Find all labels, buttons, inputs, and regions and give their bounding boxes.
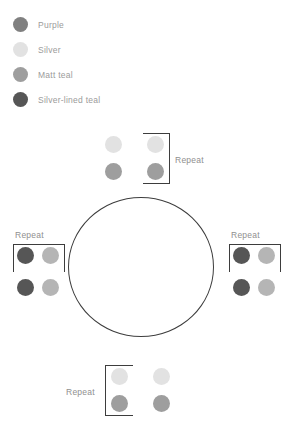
necklace-ring-outline xyxy=(68,197,214,337)
bead-silver xyxy=(111,368,128,385)
bead-cluster-top: Repeat xyxy=(105,136,195,188)
legend-label-purple: Purple xyxy=(38,20,64,30)
beading-pattern-diagram: Purple Silver Matt teal Silver-lined tea… xyxy=(0,0,283,427)
bead-matt-teal xyxy=(153,395,170,412)
legend-swatch-purple xyxy=(13,17,28,32)
bead-cluster-bottom: Repeat xyxy=(66,368,186,420)
bead-cluster-left: Repeat xyxy=(13,230,83,308)
repeat-label-bottom: Repeat xyxy=(66,387,95,397)
legend-item-silver-lined-teal: Silver-lined teal xyxy=(13,87,213,112)
legend-swatch-silver-lined-teal xyxy=(13,92,28,107)
repeat-bracket-top xyxy=(143,133,170,184)
bead-matt-teal xyxy=(258,279,275,296)
repeat-label-left: Repeat xyxy=(15,230,44,240)
legend-item-matt-teal: Matt teal xyxy=(13,62,213,87)
bead-matt-teal xyxy=(105,163,122,180)
legend-item-silver: Silver xyxy=(13,37,213,62)
repeat-label-top: Repeat xyxy=(175,155,204,165)
bead-matt-teal xyxy=(42,247,59,264)
legend-item-purple: Purple xyxy=(13,12,213,37)
legend-swatch-matt-teal xyxy=(13,67,28,82)
repeat-label-right: Repeat xyxy=(231,230,260,240)
legend-label-silver: Silver xyxy=(38,45,61,55)
bead-matt-teal xyxy=(111,395,128,412)
bead-cluster-right: Repeat xyxy=(229,230,283,308)
bead-silver-lined-teal xyxy=(233,247,250,264)
bead-silver-lined-teal xyxy=(17,279,34,296)
bead-silver-lined-teal xyxy=(233,279,250,296)
legend-label-silver-lined-teal: Silver-lined teal xyxy=(38,95,100,105)
bead-silver-lined-teal xyxy=(17,247,34,264)
bead-matt-teal xyxy=(258,247,275,264)
legend-label-matt-teal: Matt teal xyxy=(38,70,73,80)
legend: Purple Silver Matt teal Silver-lined tea… xyxy=(13,12,213,112)
bead-matt-teal xyxy=(42,279,59,296)
bead-silver xyxy=(153,368,170,385)
bead-silver xyxy=(105,136,122,153)
legend-swatch-silver xyxy=(13,42,28,57)
